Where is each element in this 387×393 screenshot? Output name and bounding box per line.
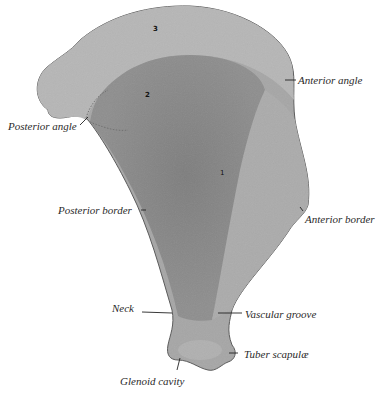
label-anterior-border: Anterior border	[305, 213, 375, 225]
label-neck: Neck	[112, 302, 134, 314]
label-anterior-angle: Anterior angle	[298, 74, 362, 86]
label-tuber-scapulae: Tuber scapulæ	[244, 348, 308, 360]
region-number-2: 2	[145, 91, 150, 99]
scapula-illustration	[0, 0, 387, 393]
region-number-1: 1	[220, 169, 224, 177]
label-posterior-border: Posterior border	[58, 204, 132, 216]
leader-neck	[142, 312, 172, 313]
label-vascular-groove: Vascular groove	[245, 308, 316, 320]
region-number-3: 3	[153, 25, 158, 33]
label-posterior-angle: Posterior angle	[8, 120, 77, 132]
label-glenoid-cavity: Glenoid cavity	[120, 375, 184, 387]
